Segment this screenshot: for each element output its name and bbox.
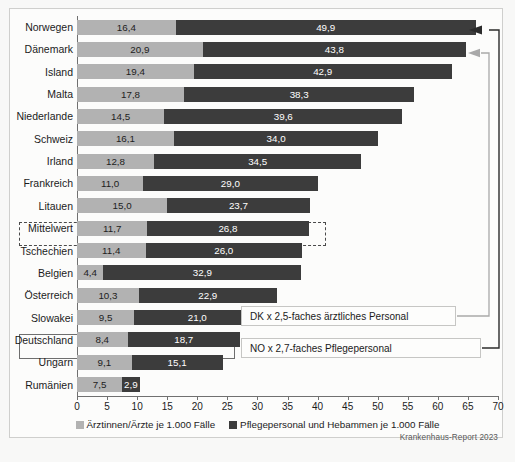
category-label: Irland [0,150,77,172]
x-tick [468,396,469,400]
bar-row: Irland12,834,5 [0,150,515,172]
stacked-bar: 11,029,0 [77,176,318,191]
x-tick-label: 15 [152,401,182,412]
x-tick [137,396,138,400]
stacked-bar: 8,418,7 [77,332,240,347]
bar-row: Malta17,838,3 [0,83,515,105]
stacked-bar: 15,023,7 [77,198,310,213]
x-tick [348,396,349,400]
bar-segment-doctors: 8,4 [77,332,128,347]
category-label: Litauen [0,195,77,217]
bar-segment-nurses: 23,7 [167,198,310,213]
bar-row: Litauen15,023,7 [0,195,515,217]
x-tick-label: 60 [423,401,453,412]
category-label: Rumänien [0,374,77,396]
category-label: Norwegen [0,16,77,38]
bar-segment-doctors: 11,4 [77,243,146,258]
x-tick [77,396,78,400]
bar-row: Island19,442,9 [0,61,515,83]
category-label: Mittelwert [0,217,77,239]
x-tick-label: 0 [62,401,92,412]
bar-segment-nurses: 15,1 [132,355,223,370]
legend-swatch-icon [229,421,237,429]
x-tick-label: 5 [92,401,122,412]
bar-row: Österreich10,322,9 [0,284,515,306]
stacked-bar: 14,539,6 [77,109,402,124]
bar-segment-nurses: 38,3 [184,87,414,102]
stacked-bar: 17,838,3 [77,87,414,102]
bar-segment-doctors: 16,1 [77,131,174,146]
bar-segment-doctors: 19,4 [77,64,194,79]
bar-segment-doctors: 15,0 [77,198,167,213]
stacked-bar: 11,426,0 [77,243,302,258]
category-label: Slowakei [0,307,77,329]
bar-segment-doctors: 14,5 [77,109,164,124]
x-tick [498,396,499,400]
category-label: Belgien [0,262,77,284]
bar-row: Belgien4,432,9 [0,262,515,284]
x-tick-label: 65 [453,401,483,412]
bar-row: Mittelwert11,726,8 [0,217,515,239]
source-caption: Krankenhaus-Report 2023 [400,433,498,442]
chart-legend: Ärztinnen/Ärzte je 1.000 FällePflegepers… [0,419,515,433]
bar-row: Norwegen16,449,9 [0,16,515,38]
category-label: Niederlande [0,105,77,127]
chart-plot-area: 0510152025303540455055606570 Norwegen16,… [0,0,515,462]
bar-segment-nurses: 26,0 [146,243,302,258]
x-tick-label: 25 [212,401,242,412]
stacked-bar: 7,52,9 [77,377,140,392]
bar-segment-nurses: 32,9 [103,265,301,280]
annotation-no: NO x 2,7-faches Pflegepersonal [241,338,481,358]
x-tick [318,396,319,400]
stacked-bar: 11,726,8 [77,221,309,236]
bar-segment-doctors: 9,1 [77,355,132,370]
bar-row: Niederlande14,539,6 [0,105,515,127]
stacked-bar: 12,834,5 [77,154,361,169]
annotation-dk: DK x 2,5-faches ärztliches Personal [241,306,456,326]
bar-segment-nurses: 34,5 [154,154,361,169]
x-tick-label: 55 [393,401,423,412]
x-tick-label: 50 [363,401,393,412]
stacked-bar: 20,943,8 [77,42,466,57]
bar-segment-doctors: 16,4 [77,20,176,35]
bar-segment-nurses: 39,6 [164,109,402,124]
category-label: Island [0,61,77,83]
stacked-bar: 10,322,9 [77,288,277,303]
x-tick [167,396,168,400]
x-tick-label: 40 [303,401,333,412]
legend-item-doctors: Ärztinnen/Ärzte je 1.000 Fälle [76,419,216,430]
bar-segment-nurses: 29,0 [143,176,317,191]
x-tick-label: 30 [242,401,272,412]
category-label: Deutschland [0,329,77,351]
stacked-bar: 4,432,9 [77,265,301,280]
legend-item-nurses: Pflegepersonal und Hebammen je 1.000 Fäl… [229,419,439,430]
x-tick-label: 70 [483,401,513,412]
bar-segment-nurses: 26,8 [147,221,308,236]
bar-segment-nurses: 49,9 [176,20,476,35]
x-tick-label: 10 [122,401,152,412]
x-tick [438,396,439,400]
category-label: Schweiz [0,128,77,150]
bar-segment-doctors: 9,5 [77,310,134,325]
category-label: Österreich [0,284,77,306]
bar-row: Frankreich11,029,0 [0,172,515,194]
bar-segment-nurses: 34,0 [174,131,378,146]
bar-segment-doctors: 10,3 [77,288,139,303]
bar-segment-nurses: 22,9 [139,288,277,303]
stacked-bar: 9,521,0 [77,310,260,325]
bar-segment-doctors: 11,7 [77,221,147,236]
bar-segment-nurses: 18,7 [128,332,240,347]
x-tick-label: 35 [273,401,303,412]
x-tick [288,396,289,400]
legend-label: Ärztinnen/Ärzte je 1.000 Fälle [87,419,216,430]
bar-segment-doctors: 11,0 [77,176,143,191]
bar-segment-doctors: 12,8 [77,154,154,169]
bar-segment-doctors: 4,4 [77,265,103,280]
x-tick [408,396,409,400]
bar-segment-doctors: 7,5 [77,377,122,392]
category-label: Frankreich [0,172,77,194]
x-tick [227,396,228,400]
bar-row: Schweiz16,134,0 [0,128,515,150]
legend-label: Pflegepersonal und Hebammen je 1.000 Fäl… [240,419,439,430]
stacked-bar: 16,449,9 [77,20,476,35]
